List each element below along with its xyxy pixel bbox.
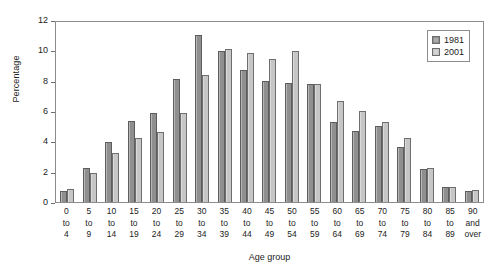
- legend-item-1981: 1981: [432, 34, 464, 46]
- x-axis-tick-label: 20to24: [145, 206, 168, 241]
- y-axis-tick-mark: [51, 203, 55, 204]
- bar-group: [371, 22, 393, 202]
- bar-group: [78, 22, 100, 202]
- x-axis-tick-label: 15to19: [123, 206, 146, 241]
- y-axis-ticks: 024681012: [0, 0, 55, 224]
- bar-1981: [60, 191, 67, 202]
- bar-1981: [375, 126, 382, 202]
- bar-1981: [420, 169, 427, 202]
- bar-group: [101, 22, 123, 202]
- bar-2001: [449, 187, 456, 202]
- bar-2001: [427, 168, 434, 202]
- bar-group: [56, 22, 78, 202]
- bar-1981: [105, 142, 112, 202]
- x-axis-tick-label: 35to39: [213, 206, 236, 241]
- bar-2001: [180, 113, 187, 202]
- x-axis-tick-label: 0to4: [55, 206, 78, 241]
- bar-1981: [352, 131, 359, 202]
- x-axis-tick-label: 85to89: [439, 206, 462, 241]
- bar-1981: [285, 83, 292, 202]
- x-axis-tick-label: 80to84: [416, 206, 439, 241]
- bar-2001: [314, 84, 321, 202]
- x-axis-tick-label: 75to79: [394, 206, 417, 241]
- x-axis-tick-label: 45to49: [258, 206, 281, 241]
- bar-1981: [173, 79, 180, 202]
- bar-1981: [150, 113, 157, 202]
- bar-2001: [90, 173, 97, 202]
- bar-2001: [359, 111, 366, 202]
- legend-swatch-2001-icon: [432, 48, 440, 56]
- bar-2001: [202, 75, 209, 202]
- legend-item-2001: 2001: [432, 46, 464, 58]
- bar-group: [213, 22, 235, 202]
- bars-layer: [56, 22, 483, 202]
- x-axis-label: Age group: [55, 252, 484, 262]
- y-axis-tick-label: 10: [38, 45, 48, 55]
- y-axis-tick-label: 2: [43, 167, 48, 177]
- bar-2001: [247, 53, 254, 202]
- bar-group: [348, 22, 370, 202]
- bar-group: [146, 22, 168, 202]
- x-axis-ticks: 0to45to910to1415to1920to2425to2930to3435…: [55, 206, 484, 241]
- x-axis-tick-label: 60to64: [326, 206, 349, 241]
- bar-group: [281, 22, 303, 202]
- bar-2001: [404, 138, 411, 202]
- y-axis-tick-label: 0: [43, 197, 48, 207]
- y-axis-tick-label: 4: [43, 136, 48, 146]
- legend-swatch-1981-icon: [432, 36, 440, 44]
- x-axis-tick-label: 30to34: [190, 206, 213, 241]
- bar-2001: [112, 153, 119, 202]
- bar-group: [191, 22, 213, 202]
- bar-group: [393, 22, 415, 202]
- x-axis-tick-label: 55to59: [303, 206, 326, 241]
- bar-group: [303, 22, 325, 202]
- bar-1981: [397, 147, 404, 202]
- bar-1981: [218, 51, 225, 202]
- bar-1981: [307, 84, 314, 202]
- bar-2001: [269, 59, 276, 202]
- bar-2001: [382, 122, 389, 202]
- bar-group: [326, 22, 348, 202]
- y-axis-tick-label: 12: [38, 15, 48, 25]
- bar-2001: [67, 189, 74, 202]
- bar-2001: [225, 49, 232, 202]
- bar-1981: [128, 121, 135, 202]
- legend-label-1981: 1981: [444, 35, 464, 45]
- bar-1981: [465, 191, 472, 202]
- bar-2001: [157, 132, 164, 202]
- bar-chart-figure: Percentage 024681012 1981 2001 0to45to91…: [0, 0, 497, 276]
- y-axis-tick-label: 8: [43, 76, 48, 86]
- bar-group: [236, 22, 258, 202]
- x-axis-tick-label: 40to44: [236, 206, 259, 241]
- bar-1981: [83, 168, 90, 202]
- legend-label-2001: 2001: [444, 47, 464, 57]
- x-axis-tick-label: 70to74: [371, 206, 394, 241]
- chart-legend: 1981 2001: [427, 30, 470, 62]
- x-axis-tick-label: 10to14: [100, 206, 123, 241]
- bar-2001: [472, 190, 479, 202]
- bar-2001: [337, 101, 344, 202]
- bar-2001: [135, 138, 142, 202]
- bar-2001: [292, 51, 299, 202]
- x-axis-tick-label: 25to29: [168, 206, 191, 241]
- x-axis-tick-label: 5to9: [78, 206, 101, 241]
- bar-1981: [442, 187, 449, 202]
- bar-group: [168, 22, 190, 202]
- plot-area: 1981 2001: [55, 21, 484, 203]
- bar-1981: [330, 122, 337, 202]
- bar-1981: [195, 35, 202, 202]
- bar-1981: [240, 70, 247, 202]
- x-axis-tick-label: 65to69: [349, 206, 372, 241]
- y-axis-tick-label: 6: [43, 106, 48, 116]
- bar-group: [258, 22, 280, 202]
- x-axis-tick-label: 90andover: [461, 206, 484, 241]
- bar-1981: [262, 81, 269, 202]
- x-axis-tick-label: 50to54: [281, 206, 304, 241]
- bar-group: [123, 22, 145, 202]
